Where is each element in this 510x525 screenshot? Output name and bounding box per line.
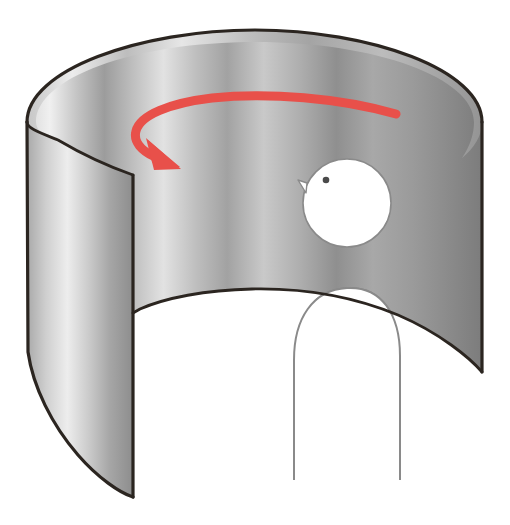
- person-silhouette-legs: [294, 288, 400, 480]
- metal-sheet-inner-face: [27, 122, 133, 497]
- figure-canvas: Rotating curved metal sheet with person …: [0, 0, 510, 525]
- eye-dot: [323, 177, 330, 184]
- illustration-svg: [0, 0, 510, 525]
